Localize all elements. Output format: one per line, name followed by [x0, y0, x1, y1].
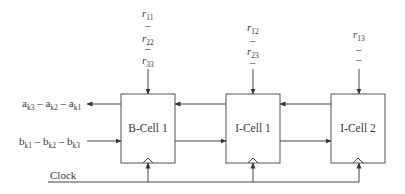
separator: –: [144, 19, 151, 31]
cell-label: I-Cell 2: [340, 122, 376, 134]
systolic-array-diagram: r11 – r22 – r33 r12 – r23 – r13 – – B: [0, 0, 405, 194]
input-r13: r13: [353, 28, 365, 43]
cell-bcell1: B-Cell 1: [121, 94, 175, 163]
input-b-label: bk1 – bk2 – bk3: [19, 135, 80, 150]
bcell1-top-inputs: r11 – r22 – r33: [142, 7, 154, 94]
icell1-top-inputs: r12 – r23 –: [247, 21, 259, 94]
separator: –: [144, 42, 151, 54]
clock-label: Clock: [50, 169, 77, 181]
output-a-signal: ak3 – ak2 – ak1: [22, 97, 121, 112]
cell-icell1: I-Cell 1: [226, 94, 280, 163]
icell2-top-inputs: r13 – –: [353, 28, 365, 94]
cell-label: B-Cell 1: [128, 122, 168, 134]
input-r33: r33: [142, 54, 154, 69]
cell-icell2: I-Cell 2: [331, 94, 385, 163]
separator: –: [355, 53, 362, 65]
input-b-signal: bk1 – bk2 – bk3: [19, 135, 121, 150]
separator: –: [249, 56, 256, 68]
clock-signal: Clock: [48, 163, 359, 182]
output-a-label: ak3 – ak2 – ak1: [22, 97, 81, 112]
cell-label: I-Cell 1: [235, 122, 271, 134]
